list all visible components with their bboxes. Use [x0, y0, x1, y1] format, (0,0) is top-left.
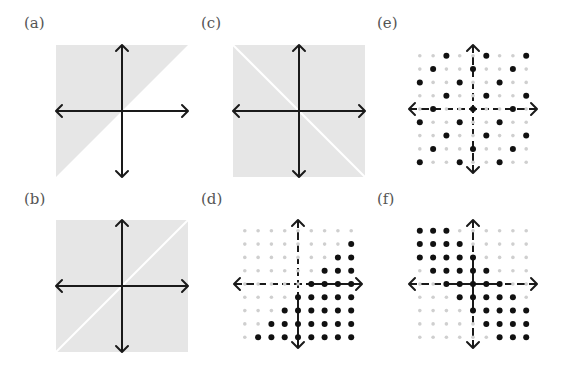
- lattice-point-in-d: [348, 281, 354, 287]
- lattice-point-in-f: [483, 281, 489, 287]
- lattice-point-out-e: [431, 121, 435, 125]
- lattice-point-out-d: [256, 309, 260, 313]
- lattice-point-out-e: [445, 107, 449, 111]
- lattice-point-out-e: [445, 160, 449, 164]
- lattice-point-out-e: [498, 54, 502, 58]
- lattice-point-in-e: [470, 66, 476, 72]
- lattice-point-in-f: [457, 268, 463, 274]
- lattice-point-out-f: [431, 296, 435, 300]
- lattice-point-in-d: [295, 308, 301, 314]
- lattice-point-out-f: [418, 322, 422, 326]
- lattice-point-in-d: [268, 321, 274, 327]
- lattice-point-out-f: [431, 309, 435, 313]
- lattice-point-out-f: [524, 242, 528, 246]
- lattice-point-in-f: [430, 228, 436, 234]
- lattice-point-out-f: [511, 269, 515, 273]
- lattice-point-in-e: [523, 93, 529, 99]
- lattice-point-out-f: [471, 335, 475, 339]
- lattice-point-in-f: [470, 294, 476, 300]
- lattice-point-out-d: [243, 269, 247, 273]
- lattice-point-out-f: [524, 256, 528, 260]
- lattice-point-in-e: [457, 79, 463, 85]
- lattice-point-in-d: [348, 268, 354, 274]
- lattice-point-in-d: [268, 334, 274, 340]
- lattice-point-out-d: [256, 242, 260, 246]
- lattice-point-in-d: [282, 321, 288, 327]
- lattice-point-in-d: [295, 321, 301, 327]
- lattice-point-out-f: [431, 322, 435, 326]
- lattice-point-out-f: [418, 335, 422, 339]
- lattice-point-in-d: [322, 268, 328, 274]
- lattice-point-out-e: [471, 81, 475, 85]
- lattice-point-in-f: [430, 241, 436, 247]
- lattice-point-out-e: [511, 121, 515, 125]
- lattice-point-out-e: [431, 134, 435, 138]
- lattice-point-out-f: [511, 282, 515, 286]
- lattice-point-out-d: [296, 282, 300, 286]
- lattice-point-out-f: [418, 296, 422, 300]
- lattice-point-out-e: [511, 54, 515, 58]
- lattice-point-out-d: [243, 296, 247, 300]
- lattice-point-out-e: [431, 54, 435, 58]
- lattice-point-in-e: [510, 106, 516, 112]
- lattice-point-in-f: [510, 321, 516, 327]
- lattice-point-out-d: [256, 296, 260, 300]
- lattice-point-out-d: [270, 229, 274, 233]
- lattice-point-in-f: [417, 254, 423, 260]
- lattice-point-out-d: [310, 229, 314, 233]
- lattice-point-in-e: [457, 119, 463, 125]
- lattice-point-out-f: [458, 335, 462, 339]
- lattice-point-out-e: [445, 81, 449, 85]
- lattice-point-in-d: [335, 321, 341, 327]
- lattice-point-in-f: [510, 334, 516, 340]
- lattice-point-out-e: [418, 107, 422, 111]
- lattice-point-in-f: [417, 228, 423, 234]
- lattice-point-out-f: [485, 256, 489, 260]
- lattice-point-in-d: [348, 294, 354, 300]
- lattice-point-in-f: [497, 308, 503, 314]
- lattice-point-in-d: [308, 294, 314, 300]
- lattice-point-out-f: [458, 309, 462, 313]
- lattice-point-out-d: [283, 269, 287, 273]
- lattice-point-out-e: [458, 107, 462, 111]
- lattice-point-out-e: [524, 160, 528, 164]
- lattice-point-in-e: [497, 119, 503, 125]
- lattice-point-out-e: [524, 67, 528, 71]
- lattice-point-in-d: [335, 254, 341, 260]
- lattice-point-in-d: [322, 321, 328, 327]
- lattice-point-in-e: [483, 133, 489, 139]
- lattice-point-out-d: [283, 282, 287, 286]
- lattice-point-out-e: [431, 81, 435, 85]
- lattice-point-out-e: [458, 147, 462, 151]
- lattice-point-out-f: [485, 242, 489, 246]
- lattice-point-in-f: [430, 268, 436, 274]
- lattice-point-in-f: [443, 228, 449, 234]
- lattice-point-out-e: [458, 94, 462, 98]
- lattice-point-out-f: [511, 242, 515, 246]
- lattice-point-out-e: [445, 147, 449, 151]
- lattice-point-out-d: [256, 322, 260, 326]
- lattice-point-out-d: [270, 256, 274, 260]
- lattice-point-out-f: [471, 229, 475, 233]
- lattice-point-out-e: [511, 81, 515, 85]
- lattice-point-out-d: [323, 242, 327, 246]
- lattice-point-out-d: [256, 269, 260, 273]
- lattice-point-out-e: [471, 54, 475, 58]
- lattice-point-out-d: [336, 229, 340, 233]
- lattice-point-in-f: [523, 308, 529, 314]
- lattice-point-in-d: [308, 281, 314, 287]
- lattice-point-in-d: [335, 294, 341, 300]
- lattice-point-out-e: [524, 121, 528, 125]
- lattice-point-in-d: [308, 334, 314, 340]
- lattice-point-out-d: [256, 256, 260, 260]
- lattice-point-in-e: [523, 133, 529, 139]
- lattice-point-out-f: [485, 229, 489, 233]
- lattice-point-in-e: [470, 106, 476, 112]
- lattice-point-out-d: [349, 229, 353, 233]
- lattice-point-in-e: [430, 106, 436, 112]
- lattice-point-in-e: [457, 159, 463, 165]
- lattice-point-out-d: [243, 335, 247, 339]
- lattice-point-in-f: [470, 268, 476, 274]
- lattice-point-out-d: [296, 256, 300, 260]
- lattice-point-in-f: [470, 254, 476, 260]
